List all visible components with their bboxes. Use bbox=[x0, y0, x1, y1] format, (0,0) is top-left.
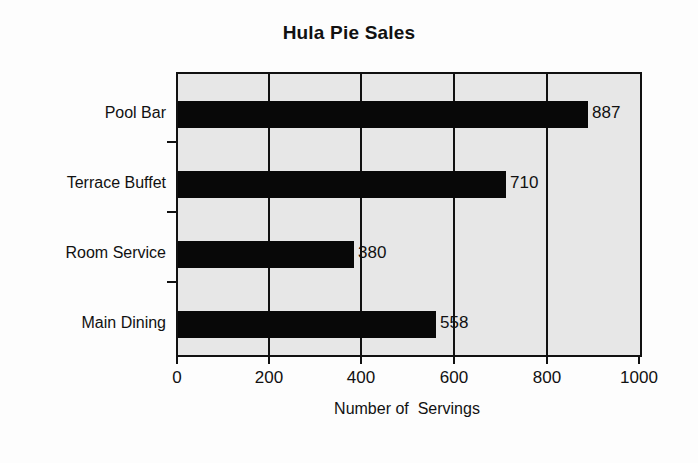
x-axis-tick-1000 bbox=[638, 355, 640, 364]
x-axis-tick-label-400: 400 bbox=[347, 368, 375, 388]
x-axis-tick-label-0: 0 bbox=[172, 368, 181, 388]
x-axis-tick-200 bbox=[268, 355, 270, 364]
bar-value-terrace-buffet: 710 bbox=[510, 169, 538, 196]
bar-value-room-service: 380 bbox=[358, 239, 386, 266]
category-label-pool-bar: Pool Bar bbox=[0, 99, 166, 126]
bar-terrace-buffet bbox=[178, 171, 506, 198]
x-axis-tick-600 bbox=[453, 355, 455, 364]
category-label-main-dining: Main Dining bbox=[0, 309, 166, 336]
x-axis-tick-800 bbox=[546, 355, 548, 364]
bar-main-dining bbox=[178, 311, 436, 338]
x-axis-tick-label-800: 800 bbox=[533, 368, 561, 388]
x-axis-title: Number of Servings bbox=[176, 400, 638, 418]
x-axis-tick-0 bbox=[176, 355, 178, 364]
y-axis-tick-3 bbox=[167, 281, 176, 283]
x-axis-tick-label-200: 200 bbox=[255, 368, 283, 388]
chart-title: Hula Pie Sales bbox=[0, 22, 698, 44]
x-axis-tick-label-1000: 1000 bbox=[620, 368, 658, 388]
category-label-room-service: Room Service bbox=[0, 239, 166, 266]
category-label-terrace-buffet: Terrace Buffet bbox=[0, 169, 166, 196]
bar-chart: Hula Pie Sales 887 710 380 558 Pool Bar … bbox=[0, 0, 698, 463]
bar-room-service bbox=[178, 241, 354, 268]
bar-pool-bar bbox=[178, 101, 588, 128]
x-axis-tick-400 bbox=[360, 355, 362, 364]
y-axis-tick-1 bbox=[167, 141, 176, 143]
plot-area bbox=[176, 72, 642, 357]
bar-value-main-dining: 558 bbox=[440, 309, 468, 336]
y-axis-tick-2 bbox=[167, 211, 176, 213]
bar-value-pool-bar: 887 bbox=[592, 99, 620, 126]
x-axis-tick-label-600: 600 bbox=[440, 368, 468, 388]
